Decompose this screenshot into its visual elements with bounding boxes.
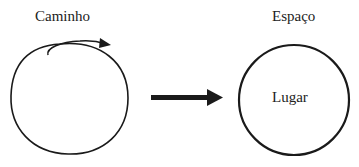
space-label: Espaço <box>272 8 315 25</box>
path-label: Caminho <box>35 8 90 25</box>
curved-arrow-icon <box>48 41 106 55</box>
diagram-canvas <box>0 0 359 167</box>
connector-arrow-shaft <box>151 95 211 100</box>
path-circle <box>11 44 128 154</box>
place-label: Lugar <box>272 89 308 106</box>
arrow-right-icon <box>207 89 223 106</box>
curved-arrowhead-icon <box>99 38 111 48</box>
